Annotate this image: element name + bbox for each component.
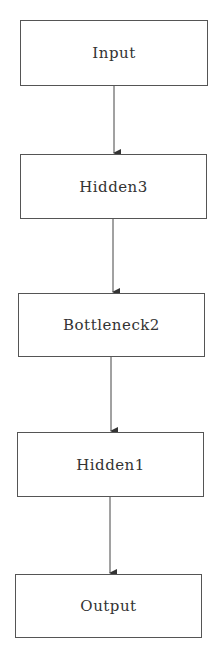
node-label: Hidden1 xyxy=(76,456,145,474)
node-input: Input xyxy=(20,20,208,86)
node-bottleneck2: Bottleneck2 xyxy=(18,293,205,357)
node-label: Hidden3 xyxy=(79,178,148,196)
node-output: Output xyxy=(15,574,202,638)
node-label: Input xyxy=(92,44,135,62)
node-label: Output xyxy=(80,597,136,615)
node-hidden1: Hidden1 xyxy=(17,432,204,497)
node-label: Bottleneck2 xyxy=(63,316,160,334)
node-hidden3: Hidden3 xyxy=(20,154,207,219)
